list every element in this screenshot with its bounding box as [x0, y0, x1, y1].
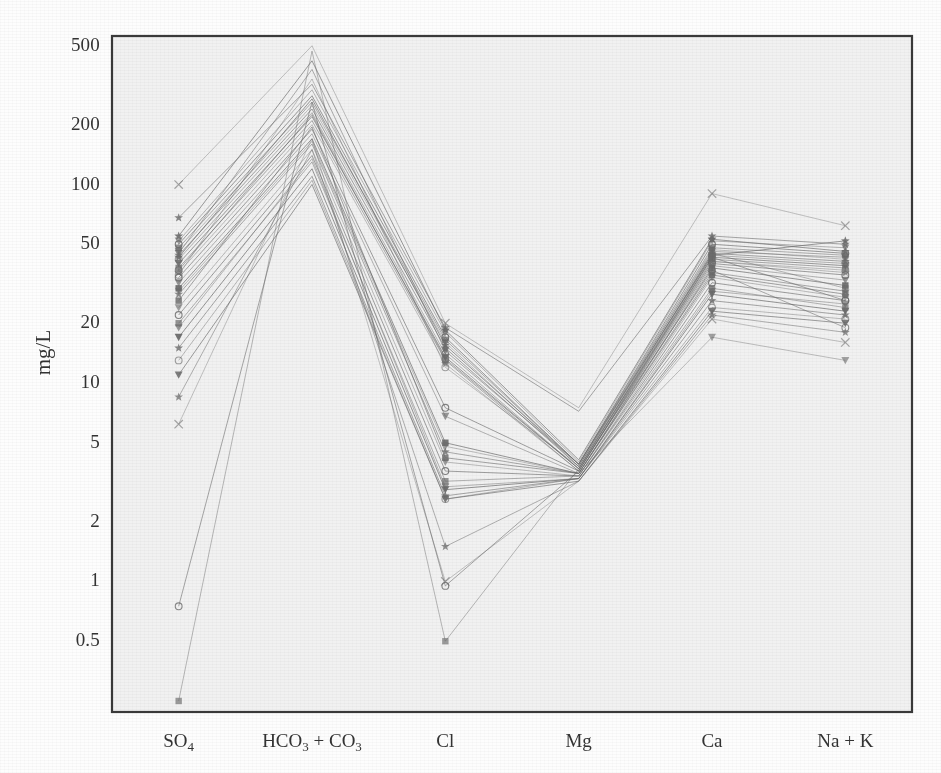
- marker-square: [842, 291, 848, 297]
- figure-container: mg/L 5002001005020105210.5 SO4HCO3 + CO3…: [0, 0, 941, 773]
- marker-square: [175, 698, 181, 704]
- plot-background: [112, 36, 912, 712]
- marker-square: [442, 638, 448, 644]
- marker-square: [442, 455, 448, 461]
- marker-square: [842, 285, 848, 291]
- parallel-coordinates-plot: [0, 0, 941, 773]
- marker-square: [175, 297, 181, 303]
